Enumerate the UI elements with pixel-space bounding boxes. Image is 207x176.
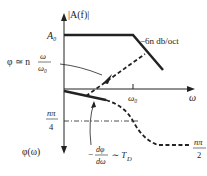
phase-approx-pointer (60, 64, 102, 75)
phase-axis-label: φ(ω) (22, 147, 40, 158)
group-delay-den: dω (96, 157, 106, 166)
phase-linear-segment (64, 91, 106, 100)
group-delay-num: dφ (96, 145, 105, 154)
group-delay-suffix: ∼ T (111, 150, 127, 160)
magnitude-axis-arrow-icon (61, 13, 67, 21)
phase-axis-arrow-icon (61, 146, 67, 154)
quarter-phase-den: 4 (49, 122, 54, 132)
quarter-phase-num: nπ (47, 108, 56, 118)
magnitude-axis-label: |A(f)| (68, 9, 89, 21)
a0-label: A₀ (46, 30, 57, 41)
half-phase-den: 2 (197, 150, 201, 160)
group-delay-subscript: D (126, 155, 132, 162)
bode-diagram: |A(f)| A₀ −6n db/oct φ ≃ n ω ω₀ ω₀ ω nπ … (0, 0, 207, 176)
group-delay-pointer (90, 103, 94, 145)
phase-approx-num: ω (40, 51, 46, 61)
omega-axis-label: ω (189, 92, 196, 103)
phase-approx-prefix: φ ≃ n (7, 57, 30, 67)
phase-approx-dashed-line (86, 54, 145, 96)
phase-approx-den: ω₀ (38, 63, 47, 73)
phase-dashed-curve (106, 100, 190, 145)
rolloff-label: −6n db/oct (140, 36, 179, 46)
group-delay-arrowhead-icon (91, 101, 96, 108)
group-delay-minus: − (88, 149, 93, 159)
omega0-label: ω₀ (128, 93, 137, 103)
half-phase-num: nπ (194, 137, 203, 147)
